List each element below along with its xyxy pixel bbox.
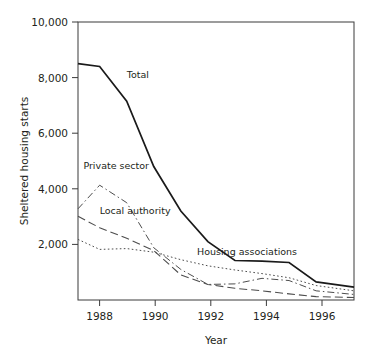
series-label-housing-associations: Housing associations: [197, 246, 297, 257]
x-tick-label-1988: 1988: [86, 310, 113, 322]
y-tick-label-4000: 4,000: [38, 183, 68, 195]
x-tick-label-1994: 1994: [253, 310, 280, 322]
series-label-local-authority: Local authority: [100, 205, 171, 216]
y-axis-title: Sheltered housing starts: [18, 97, 30, 226]
series-line-private-sector: [78, 185, 354, 294]
series-group: [78, 64, 354, 298]
x-tick-label-1990: 1990: [142, 310, 169, 322]
chart-figure: 10,000 8,000 6,000 4,000 2,000 1988 1990…: [0, 0, 370, 354]
y-tick-label-6000: 6,000: [38, 127, 68, 139]
series-annotations: Total Private sector Local authority Hou…: [83, 69, 297, 257]
line-chart-svg: 10,000 8,000 6,000 4,000 2,000 1988 1990…: [0, 0, 370, 354]
series-label-private-sector: Private sector: [83, 160, 149, 171]
y-tick-label-8000: 8,000: [38, 72, 68, 84]
y-axis-ticks: [72, 22, 78, 244]
y-tick-label-10000: 10,000: [31, 16, 68, 28]
x-tick-label-1996: 1996: [309, 310, 336, 322]
x-tick-label-1992: 1992: [197, 310, 224, 322]
x-axis-tick-labels: 1988 1990 1992 1994 1996: [86, 310, 335, 322]
series-label-total: Total: [126, 69, 149, 80]
x-axis-ticks: [100, 300, 322, 306]
y-tick-label-2000: 2,000: [38, 238, 68, 250]
x-axis-title: Year: [204, 334, 228, 346]
y-axis-tick-labels: 10,000 8,000 6,000 4,000 2,000: [31, 16, 68, 250]
